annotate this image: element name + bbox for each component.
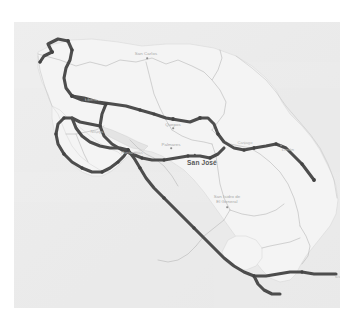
- waypoint[interactable]: [80, 166, 83, 169]
- waypoint[interactable]: [138, 166, 141, 169]
- waypoint[interactable]: [300, 162, 303, 165]
- city-dot-quesada: [172, 127, 174, 129]
- waypoint[interactable]: [140, 156, 143, 159]
- waypoint[interactable]: [252, 146, 255, 149]
- waypoint[interactable]: [50, 50, 54, 54]
- waypoint[interactable]: [54, 132, 57, 135]
- waypoint[interactable]: [62, 152, 66, 156]
- waypoint[interactable]: [274, 142, 278, 146]
- map-graphics: [14, 22, 340, 308]
- waypoint[interactable]: [104, 102, 107, 105]
- waypoint[interactable]: [100, 170, 103, 173]
- waypoint[interactable]: [66, 39, 70, 43]
- waypoint[interactable]: [38, 60, 41, 63]
- waypoint[interactable]: [70, 48, 73, 51]
- city-dot-palmares: [170, 147, 172, 149]
- waypoint[interactable]: [186, 154, 189, 157]
- map-frame: San CarlosQueposPalmaresSan JoséLimónSan…: [0, 0, 346, 323]
- waypoint[interactable]: [171, 117, 175, 121]
- waypoint[interactable]: [152, 112, 155, 115]
- waypoint[interactable]: [198, 116, 202, 120]
- map-canvas[interactable]: San CarlosQueposPalmaresSan JoséLimónSan…: [14, 22, 340, 308]
- waypoint[interactable]: [126, 148, 130, 152]
- waypoint[interactable]: [116, 160, 119, 163]
- waypoint[interactable]: [138, 108, 141, 111]
- waypoint[interactable]: [216, 132, 219, 135]
- city-dot-san-carlos: [146, 57, 148, 59]
- city-dot-san-isidro: [226, 206, 228, 208]
- waypoint[interactable]: [70, 94, 74, 98]
- waypoint[interactable]: [300, 270, 303, 273]
- waypoint[interactable]: [312, 178, 316, 182]
- waypoint[interactable]: [192, 226, 195, 229]
- waypoint[interactable]: [252, 274, 256, 278]
- waypoint[interactable]: [98, 124, 102, 128]
- waypoint[interactable]: [208, 156, 212, 160]
- city-dot-limon: [280, 144, 282, 146]
- waypoint[interactable]: [242, 148, 246, 152]
- waypoint[interactable]: [162, 158, 165, 161]
- waypoint[interactable]: [162, 196, 166, 200]
- waypoint[interactable]: [62, 116, 65, 119]
